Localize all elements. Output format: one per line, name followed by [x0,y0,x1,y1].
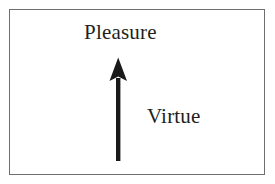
diagram-figure: Pleasure Virtue [0,0,275,184]
label-pleasure: Pleasure [84,22,157,43]
label-virtue: Virtue [147,106,201,127]
